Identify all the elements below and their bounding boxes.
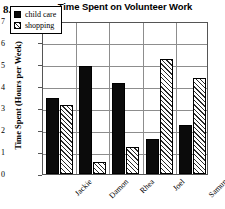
bar-shopping xyxy=(160,59,173,174)
legend-label-child-care: child care xyxy=(25,11,56,19)
bar-child-care xyxy=(46,98,59,175)
legend-item-child-care: child care xyxy=(14,9,56,20)
bar-shopping xyxy=(93,162,106,174)
bar-group xyxy=(176,23,209,174)
y-tick-label: 3 xyxy=(0,105,5,113)
bar-shopping xyxy=(60,105,73,174)
y-tick-label: 2 xyxy=(0,127,5,135)
bar-group xyxy=(143,23,176,174)
bar-shopping xyxy=(193,78,206,174)
bar-child-care xyxy=(79,66,92,174)
y-tick-label: 6 xyxy=(0,40,5,48)
bar-group xyxy=(43,23,76,174)
bar-group xyxy=(76,23,109,174)
legend-swatch-shopping-icon xyxy=(14,22,21,29)
chart-legend: child care shopping xyxy=(10,6,62,34)
bar-child-care xyxy=(112,83,125,174)
legend-label-shopping: shopping xyxy=(25,22,54,30)
legend-swatch-child-care-icon xyxy=(14,11,21,18)
y-tick-label: 0 xyxy=(0,171,5,179)
y-tick-label: 1 xyxy=(0,149,5,157)
y-tick-label: 5 xyxy=(0,62,5,70)
plot-area xyxy=(42,22,208,175)
bar-shopping xyxy=(126,147,139,174)
bar-child-care xyxy=(179,125,192,174)
bar-group xyxy=(109,23,142,174)
bar-child-care xyxy=(146,139,159,174)
y-tick-label: 7 xyxy=(0,18,5,26)
legend-item-shopping: shopping xyxy=(14,20,56,31)
y-tick-label: 4 xyxy=(0,84,5,92)
